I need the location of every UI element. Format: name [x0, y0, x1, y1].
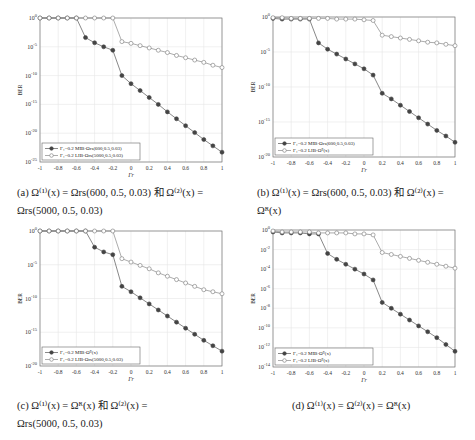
- data-point: [211, 63, 215, 67]
- chart-a: -1-0.8-0.6-0.4-0.200.20.40.60.81Γr10010-…: [0, 0, 238, 182]
- data-point: [380, 33, 384, 37]
- svg-text:10-10: 10-10: [258, 82, 271, 90]
- data-point: [220, 66, 224, 70]
- svg-text:0.4: 0.4: [397, 370, 404, 376]
- data-point: [389, 35, 393, 39]
- data-point: [147, 46, 151, 50]
- caption-b: (b) Ω⁽¹⁾(x) = Ωrs(600, 0.5, 0.03) 和 Ω⁽²⁾…: [257, 184, 444, 220]
- data-point: [380, 300, 384, 304]
- data-point: [398, 103, 402, 107]
- svg-text:0.8: 0.8: [200, 369, 207, 375]
- data-point: [353, 17, 357, 21]
- data-point: [444, 42, 448, 46]
- data-point: [398, 312, 402, 316]
- legend: Γ₁=0.2 MIB-Ωᴿ(x)Γ₁=0.2 LIB-Ωᴿ(x): [275, 348, 373, 365]
- data-point: [202, 338, 206, 342]
- legend-entry: Γ₁=0.2 LIB-Ωᴿ(x): [293, 148, 330, 153]
- svg-text:0.4: 0.4: [164, 165, 171, 171]
- chart-panel-b: -1-0.8-0.6-0.4-0.200.20.40.60.81Γr10010-…: [240, 0, 475, 182]
- data-point: [307, 230, 311, 234]
- data-point: [193, 332, 197, 336]
- svg-text:-0.2: -0.2: [108, 165, 117, 171]
- data-point: [202, 138, 206, 142]
- data-point: [326, 16, 330, 20]
- svg-text:10-20: 10-20: [25, 361, 38, 369]
- svg-text:10-10: 10-10: [258, 323, 271, 331]
- data-point: [220, 150, 224, 154]
- svg-text:0.6: 0.6: [415, 160, 422, 166]
- svg-text:-0.6: -0.6: [305, 370, 314, 376]
- svg-text:10-4: 10-4: [260, 264, 270, 272]
- legend-entry: Γ₁=0.2 LIB-Ωᴿ(x): [293, 358, 330, 363]
- data-point: [165, 110, 169, 114]
- data-point: [147, 95, 151, 99]
- data-point: [184, 56, 188, 60]
- data-point: [111, 16, 115, 20]
- data-point: [175, 278, 179, 282]
- data-point: [147, 302, 151, 306]
- data-point: [271, 16, 275, 20]
- data-point: [138, 44, 142, 48]
- svg-text:10-12: 10-12: [258, 342, 270, 350]
- svg-text:0: 0: [130, 165, 133, 171]
- y-axis: 10010-510-1010-1510-20BER: [17, 226, 38, 369]
- data-point: [156, 308, 160, 312]
- svg-text:0: 0: [363, 160, 366, 166]
- data-point: [435, 262, 439, 266]
- data-point: [435, 41, 439, 45]
- svg-text:-0.4: -0.4: [90, 369, 99, 375]
- x-axis-label: Γr: [360, 167, 367, 173]
- caption-d-line-1: (d) Ω⁽¹⁾(x) = Ω⁽²⁾(x) = Ωᴿ(x): [292, 397, 410, 415]
- chart-panel-d: -1-0.8-0.6-0.4-0.200.20.40.60.81Γr10010-…: [240, 222, 475, 397]
- data-point: [417, 324, 421, 328]
- data-point: [93, 41, 97, 45]
- caption-c: (c) Ω⁽¹⁾(x) = Ωᴿ(x) 和 Ω⁽²⁾(x) = Ωrs(5000…: [17, 397, 147, 433]
- data-point: [165, 314, 169, 318]
- data-point: [202, 288, 206, 292]
- chart-panel-c: -1-0.8-0.6-0.4-0.200.20.40.60.81Γr10010-…: [0, 222, 238, 397]
- svg-text:-0.6: -0.6: [72, 165, 81, 171]
- chart-c: -1-0.8-0.6-0.4-0.200.20.40.60.81Γr10010-…: [0, 222, 238, 397]
- data-point: [289, 230, 293, 234]
- svg-text:0.2: 0.2: [146, 369, 153, 375]
- data-point: [289, 16, 293, 20]
- svg-text:100: 100: [29, 13, 38, 21]
- data-point: [175, 320, 179, 324]
- svg-text:0.2: 0.2: [146, 165, 153, 171]
- svg-text:-0.4: -0.4: [90, 165, 99, 171]
- data-point: [444, 342, 448, 346]
- data-point: [335, 17, 339, 21]
- data-point: [326, 231, 330, 235]
- x-axis: -1-0.8-0.6-0.4-0.200.20.40.60.81Γr: [38, 165, 224, 178]
- svg-text:100: 100: [262, 225, 271, 233]
- data-point: [453, 140, 457, 144]
- svg-text:0.8: 0.8: [200, 165, 207, 171]
- data-point: [417, 39, 421, 43]
- data-point: [353, 62, 357, 66]
- data-point: [156, 102, 160, 106]
- data-point: [211, 144, 215, 148]
- svg-text:-0.4: -0.4: [323, 160, 332, 166]
- data-point: [120, 284, 124, 288]
- data-point: [202, 60, 206, 64]
- data-point: [129, 260, 133, 264]
- x-axis: -1-0.8-0.6-0.4-0.200.20.40.60.81Γr: [38, 369, 224, 382]
- data-point: [426, 330, 430, 334]
- caption-d: (d) Ω⁽¹⁾(x) = Ω⁽²⁾(x) = Ωᴿ(x): [292, 397, 410, 415]
- svg-text:1: 1: [221, 165, 224, 171]
- data-point: [353, 232, 357, 236]
- caption-c-line-1: (c) Ω⁽¹⁾(x) = Ωᴿ(x) 和 Ω⁽²⁾(x) =: [17, 397, 147, 415]
- svg-text:0.4: 0.4: [397, 160, 404, 166]
- svg-text:10-25: 10-25: [25, 157, 38, 165]
- svg-text:0.8: 0.8: [433, 160, 440, 166]
- data-point: [380, 91, 384, 95]
- chart-b: -1-0.8-0.6-0.4-0.200.20.40.60.81Γr10010-…: [240, 0, 475, 182]
- svg-text:0.6: 0.6: [182, 165, 189, 171]
- svg-text:0.2: 0.2: [379, 370, 386, 376]
- data-point: [193, 58, 197, 62]
- data-point: [38, 229, 42, 233]
- svg-text:-0.2: -0.2: [341, 160, 350, 166]
- data-point: [317, 231, 321, 235]
- x-axis-label: Γr: [127, 376, 134, 382]
- data-point: [156, 48, 160, 52]
